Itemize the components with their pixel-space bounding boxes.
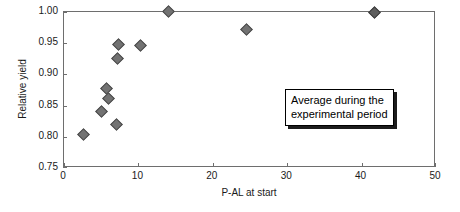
data-point xyxy=(111,52,124,65)
x-tick-label: 30 xyxy=(266,170,306,182)
y-tick-mark xyxy=(63,74,67,75)
x-tick-label: 20 xyxy=(192,170,232,182)
y-tick-label: 0.85 xyxy=(20,99,58,110)
x-tick-mark xyxy=(213,163,214,167)
y-tick-label: 0.80 xyxy=(20,130,58,141)
x-tick-label: 0 xyxy=(43,170,83,182)
x-tick-label: 40 xyxy=(341,170,381,182)
y-axis-title: Relative yield xyxy=(16,11,30,167)
x-tick-mark xyxy=(287,163,288,167)
y-tick-label: 1.00 xyxy=(20,5,58,16)
y-tick-label: 0.95 xyxy=(20,36,58,47)
y-tick-mark xyxy=(63,106,67,107)
y-tick-mark xyxy=(63,12,67,13)
x-tick-mark xyxy=(362,163,363,167)
x-tick-mark xyxy=(435,163,436,167)
data-point xyxy=(162,5,175,18)
data-point xyxy=(110,118,123,131)
data-point xyxy=(102,92,115,105)
data-point xyxy=(112,38,125,51)
x-tick-label: 50 xyxy=(415,170,455,182)
y-tick-mark xyxy=(63,43,67,44)
y-tick-label: 0.90 xyxy=(20,67,58,78)
callout-line: experimental period xyxy=(291,107,388,121)
plot-area: Average during the experimental period xyxy=(63,11,435,167)
data-point xyxy=(77,128,90,141)
y-tick-mark xyxy=(63,167,67,168)
average-period-callout: Average during the experimental period xyxy=(285,89,394,126)
x-tick-mark xyxy=(138,163,139,167)
callout-line: Average during the xyxy=(291,93,388,107)
data-point xyxy=(95,105,108,118)
data-point xyxy=(240,23,253,36)
data-point xyxy=(134,40,147,53)
scatter-chart-figure: Relative yield 0.75 0.80 0.85 0.90 0.95 … xyxy=(0,0,460,212)
x-axis-title: P-AL at start xyxy=(63,187,435,198)
y-tick-mark xyxy=(63,137,67,138)
x-tick-label: 10 xyxy=(117,170,157,182)
data-point xyxy=(368,6,381,19)
